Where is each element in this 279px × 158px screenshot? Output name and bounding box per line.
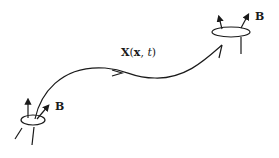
curve-label: X(x, t) xyxy=(121,46,156,59)
end-flux-loop xyxy=(212,15,250,58)
flux-tube-diagram: B B X(x, t) xyxy=(0,0,279,158)
field-arrow-icon xyxy=(219,17,222,29)
start-flux-loop xyxy=(15,100,48,145)
field-label-end: B xyxy=(255,10,264,23)
field-label-start: B xyxy=(55,100,64,113)
field-arrow-icon xyxy=(241,15,248,28)
